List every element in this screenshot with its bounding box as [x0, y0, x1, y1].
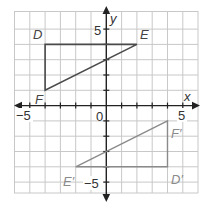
vertex-label-D: D	[33, 27, 42, 42]
x-tick-label-minus5: −5	[16, 108, 31, 123]
x-axis-label: x	[183, 89, 191, 104]
y-tick-label-minus5: −5	[84, 176, 99, 191]
coordinate-plane: 5 y x −5 0 5 −5 D E F F′ D′ E′	[0, 0, 210, 220]
vertex-label-E-prime: E′	[63, 174, 75, 189]
y-axis-label: y	[109, 11, 118, 26]
vertex-label-E: E	[140, 27, 149, 42]
y-axis-up-arrow-icon	[103, 6, 111, 14]
vertex-label-F-prime: F′	[171, 126, 182, 141]
x-tick-label-5: 5	[178, 108, 185, 123]
y-tick-label-5: 5	[94, 23, 101, 38]
vertex-label-F: F	[35, 92, 44, 107]
y-axis-down-arrow-icon	[103, 194, 111, 202]
x-axis-right-arrow-icon	[192, 102, 200, 110]
vertex-label-D-prime: D′	[171, 172, 183, 187]
origin-label: 0	[96, 109, 103, 124]
